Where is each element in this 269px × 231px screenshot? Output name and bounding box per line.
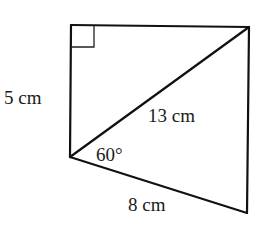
top-side-edge bbox=[71, 25, 249, 27]
right-side-edge bbox=[247, 27, 249, 213]
left-side-edge bbox=[70, 25, 71, 157]
diagonal-label: 13 cm bbox=[148, 105, 195, 126]
left-side-label: 5 cm bbox=[4, 87, 42, 108]
angle-label: 60° bbox=[96, 144, 123, 165]
diagonal-edge bbox=[70, 27, 249, 157]
bottom-side-label: 8 cm bbox=[128, 194, 166, 215]
right-angle-marker-icon bbox=[72, 26, 94, 47]
geometry-figure: 5 cm 13 cm 60° 8 cm bbox=[0, 0, 269, 231]
